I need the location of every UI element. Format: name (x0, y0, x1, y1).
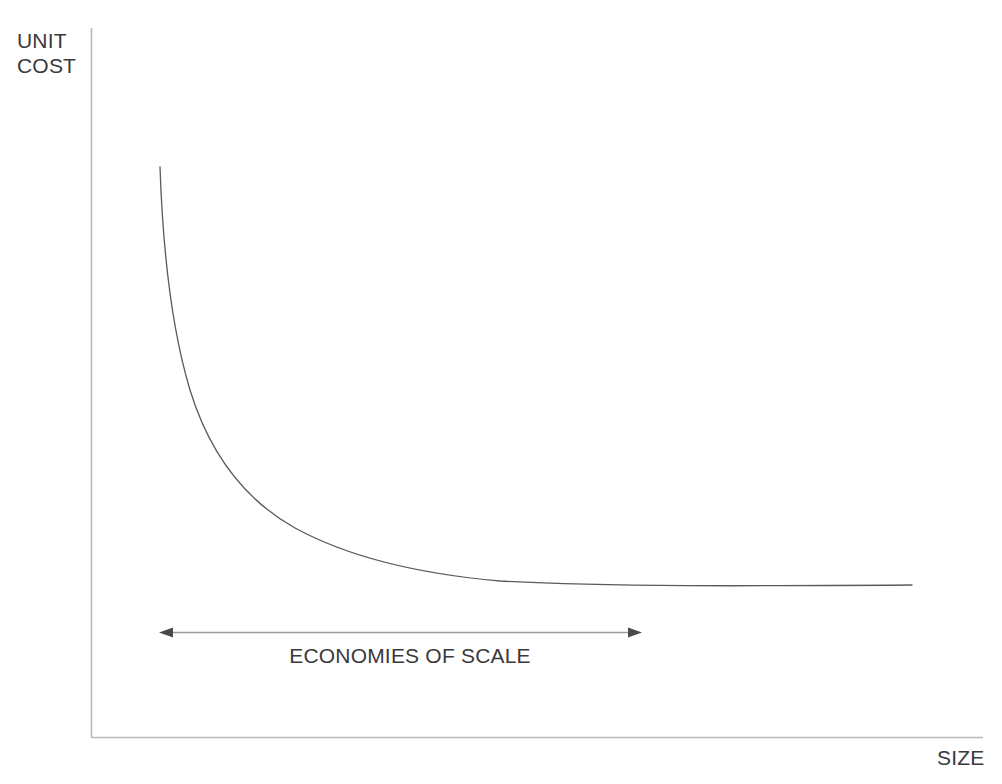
y-axis-label: UNITCOST (17, 28, 76, 78)
x-axis-label: SIZE (937, 745, 984, 770)
y-axis-label-line2: COST (17, 54, 76, 77)
economies-of-scale-label: ECONOMIES OF SCALE (0, 644, 820, 668)
y-axis-label-line1: UNIT (17, 29, 67, 52)
